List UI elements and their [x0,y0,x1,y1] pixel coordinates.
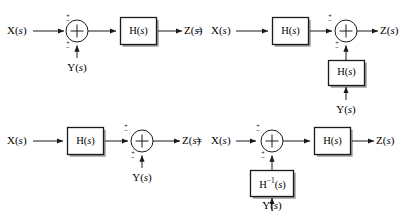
r2r-aux-label: Y(s) [262,200,282,211]
r1l-aux-sign: +− [66,40,70,50]
r2l-in-sign: +− [124,123,128,133]
r2r-input-label: X(s) [211,135,231,146]
r2r-aux-sign: +− [261,150,265,160]
r2r-output-label: Z(s) [376,135,394,146]
r1r-output-label: Z(s) [380,25,398,36]
r1r-aux-sign: +− [335,40,339,50]
r2l-input-label: X(s) [7,135,27,146]
h-inverse-paren-close: ) [282,179,286,190]
r1l-in-sign: +− [66,13,70,23]
r2l-h-block-label: H(s) [76,136,95,147]
r1r-in-sign: +− [328,13,332,23]
r2l-aux-label: Y(s) [132,172,152,183]
h-inverse-base: H [259,179,267,190]
r1l-h-block-label: H(s) [129,26,148,37]
r1l-aux-label: Y(s) [67,62,87,73]
r1r-input-label: X(s) [211,25,231,36]
r1l-input-label: X(s) [7,25,27,36]
r1r-aux-label: Y(s) [336,104,356,115]
h-inverse-exponent: −1 [267,176,275,185]
r1r-feedback-h-block-label: H(s) [337,67,356,78]
row2-equals-sign: = [196,135,202,146]
r2r-h-block-label: H(s) [323,136,342,147]
r2r-in-sign: +− [256,123,260,133]
r1r-h-block-label: H(s) [281,26,300,37]
row1-equals-sign: = [196,25,202,36]
r2r-inverse-h-block-label: H−1(s) [259,177,286,190]
r2l-aux-sign: +− [131,150,135,160]
